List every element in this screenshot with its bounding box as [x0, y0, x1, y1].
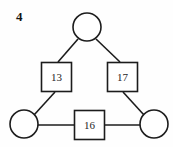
edge-label-text-left: 13 — [51, 71, 63, 83]
node-bottom-right[interactable] — [140, 110, 168, 138]
edge-label-box-right[interactable]: 17 — [108, 63, 138, 92]
edge-label-text-right: 17 — [117, 71, 129, 83]
edge-label-box-bottom[interactable]: 16 — [75, 111, 105, 140]
figure-container: 4 13 17 — [0, 0, 173, 147]
edge-line-17-to-bottom-right — [123, 92, 144, 115]
graph-diagram: 13 17 16 — [0, 0, 173, 147]
edge-line-top-to-17 — [96, 39, 120, 62]
edge-label-text-bottom: 16 — [84, 119, 96, 131]
edge-label-box-left[interactable]: 13 — [42, 63, 72, 92]
edge-line-top-to-13 — [58, 39, 78, 62]
edge-label-boxes-group: 13 17 16 — [42, 63, 138, 140]
node-bottom-left[interactable] — [10, 110, 38, 138]
edge-line-13-to-bottom-left — [34, 92, 55, 115]
node-top[interactable] — [73, 13, 101, 41]
